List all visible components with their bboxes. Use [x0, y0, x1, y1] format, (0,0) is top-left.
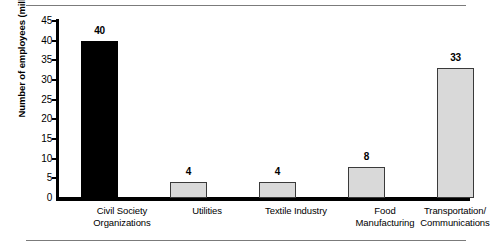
category-line-1: Transportation/ [405, 205, 494, 217]
y-tick-label: 0 [30, 193, 52, 203]
category-line-2: Communications [405, 217, 494, 229]
y-tick-label: 30 [30, 75, 52, 85]
y-tick-label: 45 [30, 16, 52, 26]
y-tick-label: 40 [30, 36, 52, 46]
bar-utilities[interactable] [170, 182, 207, 198]
bar-value-label: 4 [169, 167, 209, 177]
x-axis-category-label: Civil Society Organizations [67, 205, 177, 229]
bar-value-label: 33 [436, 53, 476, 63]
y-tick-label: 20 [30, 114, 52, 124]
bar-civil-society-organizations[interactable] [81, 41, 118, 198]
category-line-1: Civil Society [67, 205, 177, 217]
y-tick-label: 10 [30, 154, 52, 164]
y-tick-label: 35 [30, 55, 52, 65]
bar-textile-industry[interactable] [259, 182, 296, 198]
bar-value-label: 8 [347, 152, 387, 162]
bar-food-manufacturing[interactable] [348, 167, 385, 198]
bar-value-label: 4 [258, 167, 298, 177]
y-axis-tick-labels: 45 40 35 30 25 20 15 10 5 0 [26, 0, 52, 248]
bar-value-label: 40 [80, 26, 120, 36]
top-divider-rule [26, 5, 466, 6]
category-line-1: Textile Industry [251, 205, 341, 217]
x-axis-category-label: Transportation/ Communications [405, 205, 494, 229]
x-axis-category-label: Textile Industry [251, 205, 341, 217]
x-axis-category-label: Utilities [167, 205, 247, 217]
y-tick-label: 15 [30, 134, 52, 144]
bottom-divider-rule [26, 240, 466, 241]
category-line-1: Utilities [167, 205, 247, 217]
y-tick-label: 25 [30, 95, 52, 105]
category-line-2: Organizations [67, 217, 177, 229]
y-axis-title: Number of employees (millions) [16, 0, 27, 118]
y-tick-label: 5 [30, 173, 52, 183]
bar-transportation-communications[interactable] [437, 68, 474, 198]
